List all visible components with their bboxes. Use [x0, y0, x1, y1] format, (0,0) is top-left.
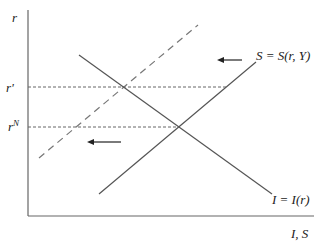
- r-natural-superscript: N: [12, 118, 20, 128]
- shift-arrow-bottom: [87, 139, 121, 145]
- shift-arrow-top: [217, 57, 242, 63]
- shifted-saving-curve: [39, 25, 198, 158]
- investment-curve: [79, 55, 272, 194]
- saving-curve-label: S = S(r, Y): [256, 48, 310, 63]
- x-axis-label: I, S: [290, 226, 309, 241]
- saving-curve: [99, 62, 256, 194]
- y-axis-label: r: [12, 10, 18, 25]
- investment-curve-label: I = I(r): [271, 192, 310, 207]
- r-prime-label: r': [6, 80, 14, 95]
- r-natural-label: rN: [8, 118, 20, 134]
- diagram-canvas: r r' rN S = S(r, Y) I = I(r) I, S: [0, 0, 323, 247]
